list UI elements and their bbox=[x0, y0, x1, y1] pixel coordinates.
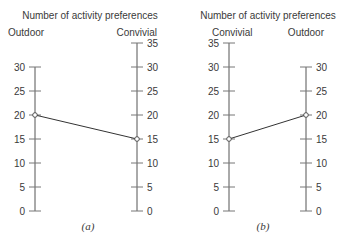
panel-a-point-outdoor bbox=[33, 113, 38, 118]
panel-b-axis-name-outdoor: Outdoor bbox=[288, 27, 325, 38]
tick-label: 20 bbox=[147, 110, 159, 121]
tick-label: 15 bbox=[147, 134, 159, 145]
tick-label: 30 bbox=[147, 62, 159, 73]
tick-label: 0 bbox=[316, 206, 322, 217]
tick-label: 0 bbox=[19, 206, 25, 217]
panel-a-axis-name-convivial: Convivial bbox=[116, 27, 157, 38]
tick-label: 0 bbox=[213, 206, 219, 217]
panel-b-caption: (b) bbox=[257, 220, 270, 233]
tick-label: 15 bbox=[208, 134, 220, 145]
panel-b-profile-line bbox=[229, 115, 306, 139]
tick-label: 25 bbox=[14, 86, 26, 97]
tick-label: 25 bbox=[147, 86, 159, 97]
tick-label: 5 bbox=[213, 182, 219, 193]
tick-label: 5 bbox=[316, 182, 322, 193]
tick-label: 25 bbox=[208, 86, 220, 97]
tick-label: 35 bbox=[208, 38, 220, 49]
tick-label: 25 bbox=[316, 86, 328, 97]
panel-b-point-outdoor bbox=[304, 113, 309, 118]
panel-b-title: Number of activity preferences bbox=[200, 10, 336, 21]
tick-label: 20 bbox=[208, 110, 220, 121]
panel-a-point-convivial bbox=[135, 137, 140, 142]
tick-label: 15 bbox=[14, 134, 26, 145]
panel-a-title: Number of activity preferences bbox=[22, 10, 158, 21]
tick-label: 5 bbox=[147, 182, 153, 193]
tick-label: 0 bbox=[147, 206, 153, 217]
panel-b-axis-name-convivial: Convivial bbox=[212, 27, 253, 38]
tick-label: 5 bbox=[19, 182, 25, 193]
panel-b-point-convivial bbox=[227, 137, 232, 142]
tick-label: 10 bbox=[14, 158, 26, 169]
tick-label: 10 bbox=[208, 158, 220, 169]
tick-label: 20 bbox=[316, 110, 328, 121]
tick-label: 35 bbox=[147, 38, 159, 49]
panel-a-axis-name-outdoor: Outdoor bbox=[8, 27, 45, 38]
tick-label: 30 bbox=[14, 62, 26, 73]
tick-label: 10 bbox=[316, 158, 328, 169]
tick-label: 30 bbox=[316, 62, 328, 73]
parallel-axis-chart: Number of activity preferencesOutdoor051… bbox=[0, 0, 342, 238]
tick-label: 10 bbox=[147, 158, 159, 169]
tick-label: 20 bbox=[14, 110, 26, 121]
panel-a-caption: (a) bbox=[82, 220, 95, 233]
panel-a-profile-line bbox=[35, 115, 137, 139]
tick-label: 15 bbox=[316, 134, 328, 145]
tick-label: 30 bbox=[208, 62, 220, 73]
